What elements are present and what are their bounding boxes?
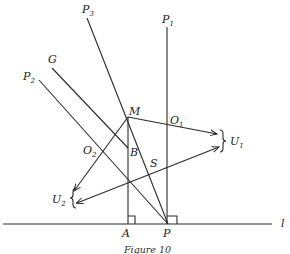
arrow-u2-u1 — [77, 147, 219, 203]
figure-10-diagram: P3 P1 P2 G M O1 O2 B S U1 U2 A P l Figur… — [0, 0, 290, 254]
label-o1: O1 — [170, 114, 184, 129]
label-u2: U2 — [52, 193, 66, 208]
label-s: S — [150, 157, 158, 170]
label-a: A — [121, 227, 130, 240]
label-o2: O2 — [83, 144, 97, 159]
label-p2: P2 — [22, 70, 35, 85]
label-g: G — [48, 53, 57, 66]
figure-caption: Figure 10 — [123, 244, 171, 254]
label-p1: P1 — [161, 13, 174, 28]
label-u1: U1 — [230, 135, 244, 150]
label-m: M — [128, 105, 141, 118]
brace-u1 — [220, 130, 226, 152]
right-angle-a — [128, 216, 135, 224]
label-p: P — [162, 227, 171, 240]
label-p3: P3 — [81, 3, 94, 18]
brace-u2 — [70, 188, 76, 208]
label-l: l — [281, 217, 285, 230]
label-b: B — [129, 146, 138, 159]
right-angle-p — [167, 216, 177, 224]
